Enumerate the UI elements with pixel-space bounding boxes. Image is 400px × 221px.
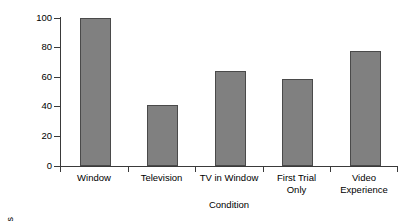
y-tick-label: 60 bbox=[16, 72, 52, 82]
y-tick-label: 20 bbox=[16, 131, 52, 141]
y-axis-tick-labels: 100 80 60 40 20 0 bbox=[12, 0, 52, 221]
x-tick-label-video-experience: Video Experience bbox=[330, 172, 398, 195]
bar-television bbox=[147, 105, 178, 166]
y-tick-label: 100 bbox=[16, 13, 52, 23]
bar-first-trial-only bbox=[282, 79, 313, 166]
x-tick-label-tv-in-window: TV in Window bbox=[193, 172, 265, 184]
plot-area bbox=[61, 18, 398, 166]
bar-window bbox=[80, 18, 111, 166]
y-tick-label: 0 bbox=[16, 161, 52, 171]
x-tick-label-first-trial-only: First Trial Only bbox=[263, 172, 330, 195]
x-axis-title: Condition bbox=[60, 199, 398, 211]
bar-chart: % Errorless Retrievals 100 80 60 40 20 0… bbox=[0, 0, 400, 221]
y-tick-label: 80 bbox=[16, 42, 52, 52]
x-axis-line bbox=[60, 166, 398, 167]
x-tick-label-window: Window bbox=[60, 172, 128, 184]
x-tick-label-television: Television bbox=[128, 172, 195, 184]
bar-video-experience bbox=[350, 51, 381, 166]
bar-tv-in-window bbox=[215, 71, 246, 166]
y-tick-label: 40 bbox=[16, 101, 52, 111]
